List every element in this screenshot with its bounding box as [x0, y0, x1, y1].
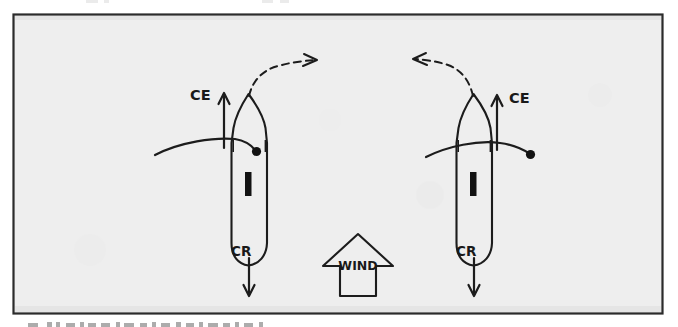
clew-dot — [252, 147, 261, 156]
diagram-canvas: CE CR WIND — [0, 0, 678, 327]
cr-label: CR — [456, 243, 477, 259]
clew-dot — [526, 150, 535, 159]
ce-label: CE — [190, 87, 211, 103]
figure-root: CE CR WIND — [0, 0, 678, 327]
centerboard-mark — [470, 172, 477, 196]
ce-label: CE — [509, 90, 530, 106]
cr-label: CR — [231, 243, 252, 259]
wind-label: WIND — [338, 258, 377, 273]
centerboard-mark — [245, 172, 252, 196]
